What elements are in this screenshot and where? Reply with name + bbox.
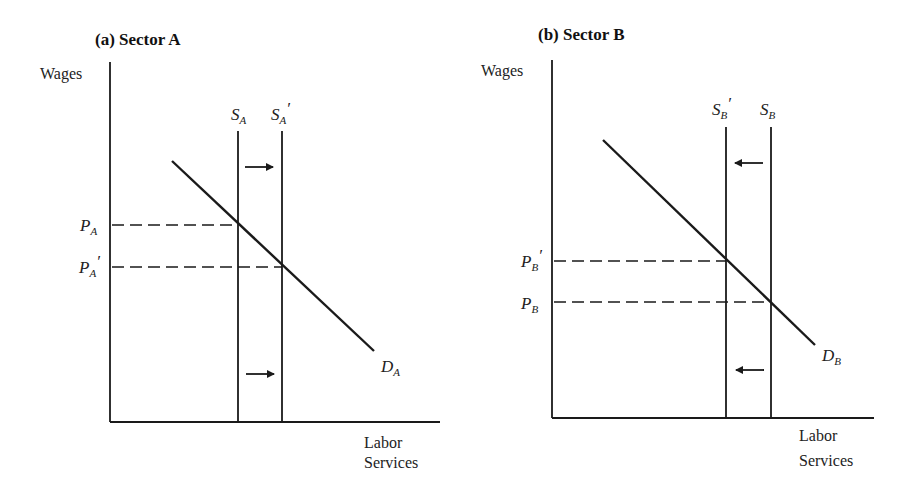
- panel-a-demand-da: [172, 161, 374, 351]
- panel-b-label-sb: SB: [760, 100, 776, 121]
- panel-a-x-axis-label-line1: Labor: [364, 434, 403, 451]
- panel-b-label-db: DB: [821, 346, 841, 367]
- panel-a-label-pa-prime: PA′: [78, 252, 100, 279]
- panel-b-x-axis-label-line1: Labor: [799, 427, 838, 444]
- panel-a-title: (a) Sector A: [95, 30, 181, 49]
- panel-b-x-axis-label-line2: Services: [799, 452, 853, 469]
- panel-sector-a: (a) Sector A Wages SA SA′ DA PA PA′ Labo…: [40, 30, 440, 471]
- panel-b-y-axis-label: Wages: [481, 62, 523, 80]
- panel-b-label-pb: PB: [520, 294, 538, 315]
- panel-a-label-sa: SA: [231, 105, 247, 126]
- panel-a-label-da: DA: [380, 357, 400, 378]
- panel-a-x-axis-label-line2: Services: [364, 454, 418, 471]
- panel-a-label-pa: PA: [79, 216, 97, 237]
- panel-a-y-axis-label: Wages: [40, 65, 82, 83]
- panel-b-demand-db: [603, 140, 815, 345]
- panel-b-title: (b) Sector B: [538, 25, 625, 44]
- panel-b-label-sb-prime: SB′: [712, 94, 731, 121]
- panel-sector-b: (b) Sector B Wages SB′ SB DB PB′ PB Labo…: [481, 25, 874, 469]
- diagram-canvas: (a) Sector A Wages SA SA′ DA PA PA′ Labo…: [0, 0, 904, 504]
- panel-b-label-pb-prime: PB′: [520, 246, 542, 273]
- panel-a-label-sa-prime: SA′: [271, 99, 290, 126]
